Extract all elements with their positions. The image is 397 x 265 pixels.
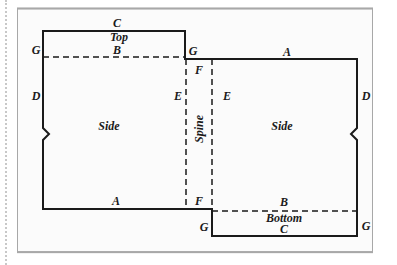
label-top-f: F: [194, 63, 203, 77]
label-right-d: D: [361, 89, 371, 103]
label-top-left-g: G: [32, 43, 41, 57]
label-spine-panel: Spine: [192, 114, 206, 143]
label-left-e: E: [173, 89, 182, 103]
label-bottom-b: B: [279, 195, 288, 209]
label-right-e: E: [222, 89, 231, 103]
label-bottom-a: A: [111, 194, 120, 208]
label-left-side-panel: Side: [98, 119, 120, 133]
label-bottom-c: C: [280, 222, 289, 236]
label-top-b: B: [112, 43, 121, 57]
label-top-right-g: G: [189, 44, 198, 58]
label-left-d: D: [31, 89, 41, 103]
label-top-c: C: [113, 16, 122, 30]
label-top-a: A: [282, 45, 291, 59]
label-right-side-panel: Side: [271, 119, 293, 133]
label-bottom-f: F: [194, 194, 203, 208]
label-top-panel: Top: [110, 30, 128, 44]
book-cover-pattern-diagram: C Top B G G A F D E E D Side Side Spine …: [0, 0, 397, 265]
label-bottom-right-g: G: [362, 219, 371, 233]
label-bottom-left-g: G: [200, 220, 209, 234]
